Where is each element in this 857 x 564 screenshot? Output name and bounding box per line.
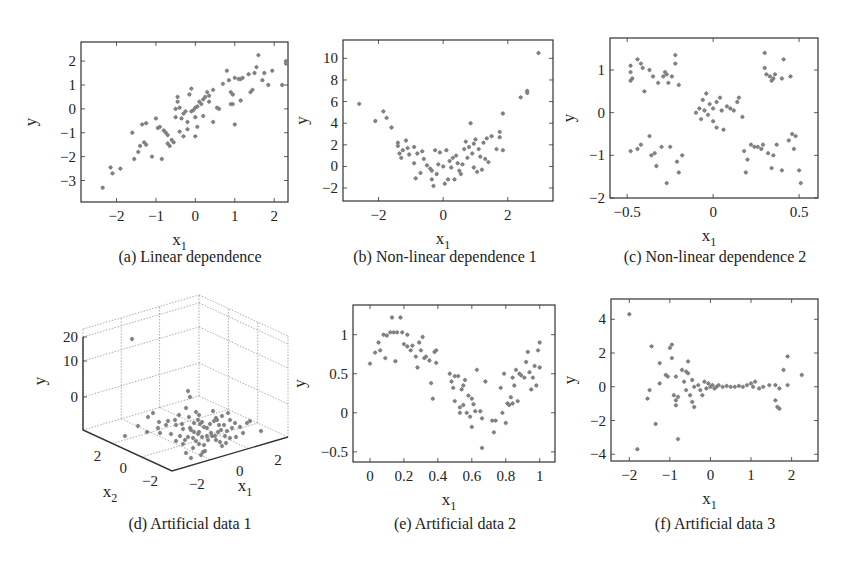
y-axis-label: y [30,376,49,385]
subplot-d: 0102020−2−202yx2x1 [30,295,288,505]
y-tick-label: −1 [60,125,76,141]
x-tick-label: 2 [504,207,512,223]
plot-frame [353,305,555,462]
subplot-a: −2−1012−3−2−1012x1y [21,42,288,253]
y-axis-label: y [21,117,40,126]
y-axis-label: y [560,375,579,384]
y-axis-label: y [290,379,309,388]
x-tick-label: 0.8 [496,468,515,484]
y-axis-label: y [559,113,578,122]
x1-axis-label: x1 [238,476,253,499]
plot-frame [611,299,818,461]
y-tick-label: 0 [341,405,349,421]
x-tick-label: 0 [707,467,715,483]
x-tick-label: 0.2 [395,468,414,484]
y-tick-label: 2 [331,137,339,153]
data-points [628,51,803,186]
x-tick-label: 0 [709,204,717,220]
y-tick-label: −3 [60,173,76,189]
x1-tick-label: 2 [274,452,282,468]
y-tick-label: 2 [599,345,607,361]
x-axis-label: x1 [172,230,187,253]
y-tick-label: 10 [63,353,78,369]
3d-axes [83,337,288,471]
y-tick-label: 6 [331,94,339,110]
y-tick-label: 0 [599,379,607,395]
x-tick-label: 0.4 [428,468,447,484]
data-points [627,312,804,452]
x2-tick-label: 2 [94,448,102,464]
figure-canvas: −2−1012−3−2−1012x1y−202−20246810x1y−0.50… [0,0,857,564]
y-tick-label: 4 [331,115,339,131]
x1-tick-label: −2 [189,476,205,492]
y-axis-label: y [292,116,311,125]
x-tick-label: 1 [231,208,239,224]
x-tick-label: 1 [747,467,755,483]
data-points [357,51,541,189]
x-tick-label: 1 [536,468,544,484]
y-tick-label: 0 [598,105,606,121]
y-tick-label: 10 [323,50,338,66]
y-tick-label: 2 [69,53,77,69]
y-tick-label: 4 [599,311,607,327]
y-tick-label: −2 [60,149,76,165]
y-tick-label: −4 [590,446,606,462]
x-tick-label: −1 [662,467,678,483]
x-tick-label: 0.5 [790,204,809,220]
x-tick-label: 2 [270,208,278,224]
x-tick-label: −1 [148,208,164,224]
subplot-c: −0.500.5−2−101x1y [559,38,818,249]
x-tick-label: 0 [366,468,374,484]
y-tick-label: −1 [589,147,605,163]
y-tick-label: 20 [63,329,78,345]
y-tick-label: 1 [341,327,349,343]
subplot-f: −2−1012−4−2024x1y [560,299,818,512]
x-tick-label: 2 [788,467,796,483]
x2-axis-label: x2 [103,482,118,505]
x-axis-label: x1 [442,490,457,513]
x-axis-label: x1 [436,229,451,252]
data-points [368,315,542,450]
y-tick-label: 0.5 [329,366,348,382]
y-tick-label: 0 [331,158,339,174]
x-tick-label: −2 [109,208,125,224]
x-tick-label: 0 [192,208,200,224]
x2-tick-label: −2 [142,473,158,489]
x-tick-label: 0.6 [462,468,481,484]
x2-tick-label: 0 [120,460,128,476]
x-tick-label: −2 [371,207,387,223]
x-tick-label: −0.5 [614,204,641,220]
x-axis-label: x1 [702,489,717,512]
subplot-b: −202−20246810x1y [292,40,553,252]
y-tick-label: −2 [322,180,338,196]
x-tick-label: −2 [621,467,637,483]
y-tick-label: −2 [590,413,606,429]
subplot-e: 00.20.40.60.81−0.500.51x1y [290,305,555,513]
x-axis-label: x1 [702,226,717,249]
y-tick-label: −0.5 [321,444,348,460]
y-tick-label: 1 [598,62,606,78]
y-tick-label: −2 [589,190,605,206]
data-points [100,53,288,190]
y-tick-label: 0 [69,101,77,117]
y-tick-label: 8 [331,72,339,88]
y-tick-label: 0 [71,389,79,405]
y-tick-label: 1 [69,77,77,93]
data-points [123,337,264,461]
x-tick-label: 0 [439,207,447,223]
